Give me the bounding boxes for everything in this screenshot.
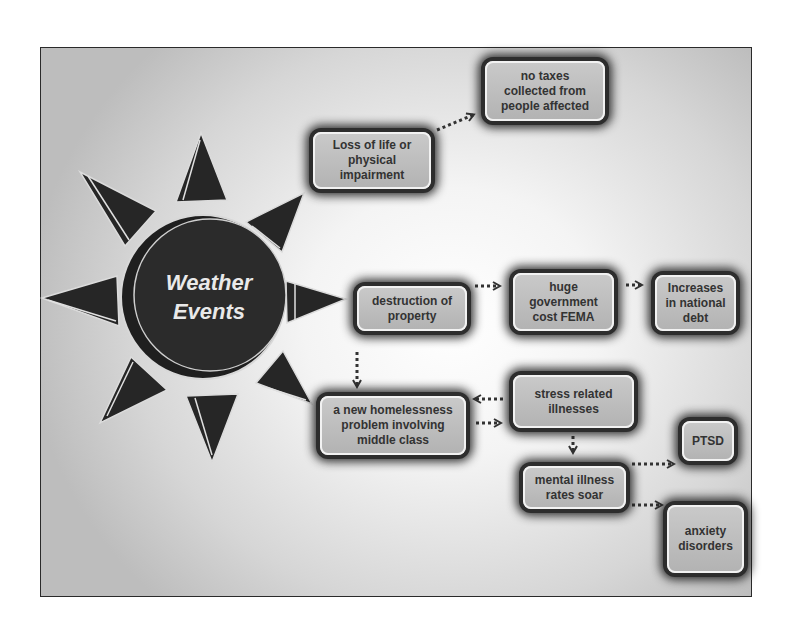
node-government-cost-fema[interactable]: huge government cost FEMA: [513, 273, 614, 331]
node-homelessness[interactable]: a new homelessness problem involving mid…: [320, 396, 466, 455]
center-label-line2: Events: [144, 297, 274, 326]
node-label: PTSD: [692, 434, 724, 449]
node-label: anxiety disorders: [678, 524, 733, 554]
node-label: huge government cost FEMA: [529, 280, 598, 325]
node-label: stress related illnesses: [534, 387, 612, 417]
node-destruction-of-property[interactable]: destruction of property: [357, 286, 467, 331]
node-no-taxes[interactable]: no taxes collected from people affected: [485, 61, 605, 121]
edge-loss-to-taxes: [437, 115, 473, 130]
node-stress-illnesses[interactable]: stress related illnesses: [513, 375, 634, 428]
node-label: mental illness rates soar: [535, 473, 614, 503]
center-label-line1: Weather: [144, 268, 274, 297]
node-ptsd[interactable]: PTSD: [682, 421, 734, 461]
node-loss-of-life[interactable]: Loss of life or physical impairment: [313, 132, 431, 189]
node-anxiety-disorders[interactable]: anxiety disorders: [667, 505, 744, 573]
node-national-debt[interactable]: Increases in national debt: [655, 275, 736, 331]
node-label: destruction of property: [372, 294, 452, 324]
node-label: no taxes collected from people affected: [501, 69, 589, 114]
node-mental-illness[interactable]: mental illness rates soar: [523, 466, 626, 509]
center-node-label: Weather Events: [144, 268, 274, 326]
node-label: a new homelessness problem involving mid…: [333, 403, 452, 448]
node-label: Increases in national debt: [666, 281, 726, 326]
node-label: Loss of life or physical impairment: [333, 138, 412, 183]
